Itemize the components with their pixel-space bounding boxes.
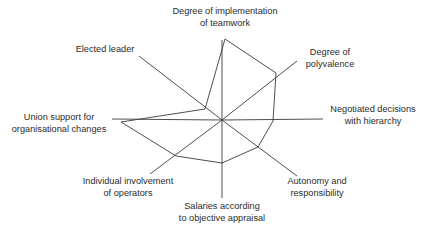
axis-label-line: organisational changes [2,124,116,136]
axis-label-line: Individual involvement [76,176,180,188]
axis-label-line: Autonomy and [282,176,352,188]
axis-line-elected [139,56,222,120]
axis-label-line: Elected leader [70,44,140,56]
axis-label-elected: Elected leader [70,44,140,56]
axis-label-individual: Individual involvement of operators [76,176,180,199]
axis-line-negotiated [222,119,323,120]
axis-label-teamwork: Degree of implementation of teamwork [163,6,287,29]
axis-label-line: Salaries according [170,201,274,213]
radar-profile-polygon [121,39,276,163]
axis-label-line: to objective appraisal [170,213,274,225]
axis-label-union: Union support for organisational changes [2,112,116,135]
axis-label-autonomy: Autonomy and responsibility [282,176,352,199]
axis-line-union [112,119,222,120]
axis-label-line: Union support for [2,112,116,124]
axis-line-autonomy [222,120,297,176]
axis-label-line: polyvalence [300,59,360,71]
axis-label-line: of operators [76,188,180,200]
axis-label-line: Negotiated decisions [318,104,424,116]
axis-label-line: responsibility [282,188,352,200]
axis-label-negotiated: Negotiated decisions with hierarchy [318,104,424,127]
axis-label-salaries: Salaries according to objective appraisa… [170,201,274,224]
axis-label-line: Degree of implementation [163,6,287,18]
axis-label-line: with hierarchy [318,116,424,128]
axis-label-polyvalence: Degree of polyvalence [300,47,360,70]
axis-line-polyvalence [222,61,297,120]
axis-label-line: Degree of [300,47,360,59]
axis-label-line: of teamwork [163,18,287,30]
